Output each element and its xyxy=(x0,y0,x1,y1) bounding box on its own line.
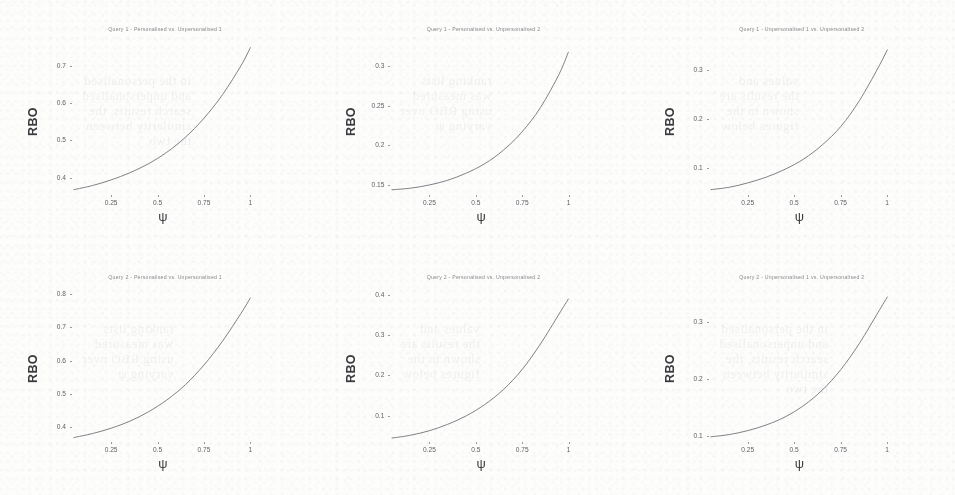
rbo-curve xyxy=(637,0,955,248)
rbo-curve xyxy=(318,248,636,495)
chart-panel: ranking lists was measured using RBO ove… xyxy=(0,248,318,495)
figure-panel-grid: in the personalised and unpersonalised s… xyxy=(0,0,955,495)
rbo-curve xyxy=(318,0,636,248)
chart-panel: in the personalised and unpersonalised s… xyxy=(0,0,318,248)
chart-panel: values and the results are shown in the … xyxy=(637,0,955,248)
rbo-curve xyxy=(637,248,955,495)
chart-panel: in the personalised and unpersonalised s… xyxy=(637,248,955,495)
chart-panel: ranking lists was measured using RBO ove… xyxy=(318,0,636,248)
rbo-curve xyxy=(0,0,318,248)
chart-panel: values and the results are shown in the … xyxy=(318,248,636,495)
rbo-curve xyxy=(0,248,318,495)
